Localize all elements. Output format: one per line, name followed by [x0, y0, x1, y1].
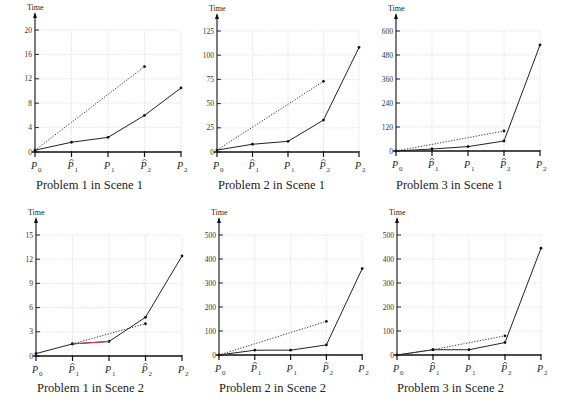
svg-text:1: 1 — [471, 165, 475, 173]
y-tick-label: 200 — [383, 303, 395, 312]
svg-text:0: 0 — [222, 369, 226, 377]
y-tick-label: 500 — [383, 231, 395, 240]
x-tick-label: P2 — [176, 160, 188, 174]
data-point — [180, 87, 183, 90]
data-point — [432, 348, 435, 351]
y-axis-arrow-icon — [395, 217, 399, 223]
data-point — [287, 140, 290, 143]
data-point — [34, 149, 37, 152]
data-point — [361, 267, 364, 270]
data-point — [467, 145, 470, 148]
svg-text:2: 2 — [148, 166, 152, 174]
data-point — [35, 352, 38, 355]
grid — [396, 31, 540, 151]
series-dotted — [217, 80, 325, 150]
y-tick-label: 25 — [207, 123, 215, 132]
y-axis-label: Time — [211, 208, 228, 217]
svg-text:P: P — [391, 159, 398, 170]
data-point — [503, 130, 506, 133]
x-tick-label: P1 — [248, 159, 260, 174]
data-point — [251, 143, 254, 146]
x-tick-label: P2 — [536, 363, 548, 377]
data-point — [540, 247, 543, 250]
x-tick-label: P2 — [141, 363, 153, 378]
svg-text:P: P — [67, 160, 74, 171]
y-tick-label: 50 — [207, 99, 215, 108]
axes — [33, 217, 182, 361]
svg-text:P: P — [321, 363, 328, 374]
svg-text:2: 2 — [329, 369, 333, 377]
chart-problem-2-scene-2: Time0100200300400500P0P1P1P2P2 Problem 2… — [190, 210, 380, 410]
x-tick-label: P1 — [464, 363, 476, 377]
svg-text:2: 2 — [362, 166, 366, 174]
series-dotted — [35, 65, 146, 150]
y-tick-label: 500 — [205, 231, 217, 240]
svg-text:2: 2 — [544, 369, 548, 377]
y-tick-label: 9 — [29, 279, 33, 288]
x-tick-label: P0 — [392, 363, 404, 377]
svg-text:2: 2 — [185, 370, 189, 378]
x-tick-label: P2 — [140, 159, 152, 174]
chart-caption: Problem 3 in Scene 1 — [396, 178, 503, 193]
y-tick-label: 200 — [205, 303, 217, 312]
y-tick-label: 100 — [383, 327, 395, 336]
x-tick-label: P1 — [283, 160, 295, 174]
y-tick-label: 0 — [389, 147, 393, 156]
data-point — [431, 148, 434, 151]
chart-problem-3-scene-2: Time0100200300400500P0P1P1P2P2 Problem 3… — [374, 210, 564, 410]
svg-text:1: 1 — [435, 165, 439, 173]
chart-problem-1-scene-2: Time03691215P0P1P1P2P2 Problem 1 in Scen… — [0, 210, 190, 410]
data-point — [253, 349, 256, 352]
x-tick-label: P0 — [30, 160, 42, 174]
y-axis-label: Time — [28, 208, 45, 217]
series-solid — [35, 255, 184, 355]
y-tick-label: 300 — [205, 279, 217, 288]
svg-text:P: P — [212, 160, 219, 171]
data-point — [322, 80, 325, 83]
y-tick-label: 300 — [383, 279, 395, 288]
y-tick-label: 20 — [25, 26, 33, 35]
x-tick-label: P1 — [286, 363, 298, 377]
data-point — [144, 316, 147, 319]
data-point — [325, 320, 328, 323]
grid — [397, 235, 541, 355]
chart-caption: Problem 2 in Scene 1 — [218, 178, 325, 193]
y-axis-label: Time — [389, 208, 406, 217]
svg-text:0: 0 — [38, 166, 42, 174]
svg-text:1: 1 — [256, 166, 260, 174]
svg-text:2: 2 — [149, 370, 153, 378]
y-tick-label: 3 — [29, 327, 33, 336]
x-tick-label: P1 — [463, 159, 475, 173]
x-tick-label: P1 — [67, 159, 79, 174]
svg-text:P: P — [536, 363, 543, 374]
x-tick-label: P0 — [391, 159, 403, 173]
x-tick-label: P0 — [31, 364, 43, 378]
data-point — [181, 255, 184, 258]
grid — [35, 30, 181, 152]
svg-text:P: P — [499, 159, 506, 170]
y-tick-label: 0 — [210, 148, 214, 157]
data-point — [107, 136, 110, 139]
y-tick-label: 600 — [382, 27, 394, 36]
svg-text:P: P — [283, 160, 290, 171]
data-point — [322, 119, 325, 122]
chart-caption: Problem 2 in Scene 2 — [219, 381, 326, 396]
data-point — [325, 344, 328, 347]
svg-text:2: 2 — [508, 369, 512, 377]
y-tick-label: 0 — [29, 352, 33, 361]
data-point — [143, 114, 146, 117]
data-point — [144, 322, 147, 325]
x-tick-label: P1 — [103, 160, 115, 174]
svg-text:P: P — [68, 364, 75, 375]
svg-text:1: 1 — [291, 166, 295, 174]
y-axis-arrow-icon — [33, 12, 37, 18]
svg-text:P: P — [357, 363, 364, 374]
svg-text:P: P — [354, 160, 361, 171]
svg-text:P: P — [214, 363, 221, 374]
y-tick-label: 4 — [28, 123, 32, 132]
chart-caption: Problem 3 in Scene 2 — [397, 381, 504, 396]
svg-text:1: 1 — [76, 370, 80, 378]
svg-text:1: 1 — [112, 370, 116, 378]
axes — [394, 217, 541, 360]
x-tick-label: P1 — [250, 362, 262, 377]
